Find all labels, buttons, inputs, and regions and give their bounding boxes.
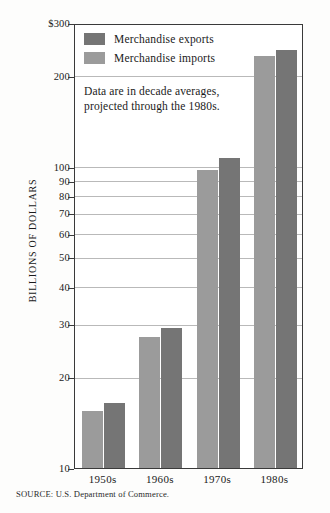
legend-item-imports: Merchandise imports [84,49,215,66]
y-tick-mark [68,168,74,169]
y-tick-mark [68,378,74,379]
y-tick-mark [68,325,74,326]
x-tick-label: 1980s [234,473,314,485]
legend-swatch-imports [84,52,105,64]
source-note: SOURCE: U.S. Department of Commerce. [16,489,169,499]
y-tick-mark [68,288,74,289]
legend-label-exports: Merchandise exports [114,33,214,45]
y-axis-title: BILLIONS OF DOLLARS [27,121,38,361]
y-tick-mark [68,214,74,215]
legend-item-exports: Merchandise exports [84,30,215,47]
legend-swatch-exports [84,33,105,45]
y-tick-mark [68,469,74,470]
y-tick-mark [68,197,74,198]
y-tick-mark [68,258,74,259]
annotation-line-1: Data are in decade averages, [84,84,274,99]
y-tick-mark [68,235,74,236]
chart-figure: $300200100908070605040302010 BILLIONS OF… [0,0,330,513]
legend-label-imports: Merchandise imports [114,52,215,64]
y-tick-mark [68,182,74,183]
chart-annotation: Data are in decade averages, projected t… [84,84,274,114]
y-tick-label: $300 [48,19,70,30]
y-tick-mark [68,77,74,78]
y-tick-mark [68,24,74,25]
chart-legend: Merchandise exports Merchandise imports [84,30,215,68]
annotation-line-2: projected through the 1980s. [84,99,274,114]
y-axis: $300200100908070605040302010 [0,0,330,513]
